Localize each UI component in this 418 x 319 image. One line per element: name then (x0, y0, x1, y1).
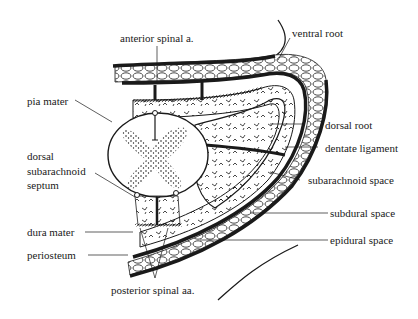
label-dorsal-septum-line1: dorsal (27, 149, 54, 163)
label-posterior-spinal-arteries: posterior spinal aa. (111, 283, 194, 297)
label-subarachnoid-space: subarachnoid space (308, 173, 394, 187)
label-dorsal-septum-line2: subarachnoid (27, 164, 86, 178)
label-pia-mater: pia mater (27, 94, 68, 108)
label-periosteum: periosteum (27, 248, 76, 262)
anterior-spinal-artery (155, 82, 202, 100)
label-dura-mater: dura mater (27, 225, 74, 239)
spinal-cord (108, 111, 208, 198)
label-dorsal-root: dorsal root (325, 118, 372, 132)
dorsal-septum (135, 191, 183, 226)
label-epidural-space: epidural space (330, 233, 393, 247)
spinal-meninges-diagram: anterior spinal a. ventral root pia mate… (0, 0, 418, 319)
label-dorsal-septum-line3: septum (27, 178, 59, 192)
label-ventral-root: ventral root (292, 26, 343, 40)
label-dentate-ligament: dentate ligament (325, 141, 398, 155)
label-subdural-space: subdural space (330, 206, 395, 220)
label-anterior-spinal-artery: anterior spinal a. (120, 31, 194, 45)
diagram-artwork (0, 0, 418, 319)
lamina-outline (218, 245, 298, 300)
